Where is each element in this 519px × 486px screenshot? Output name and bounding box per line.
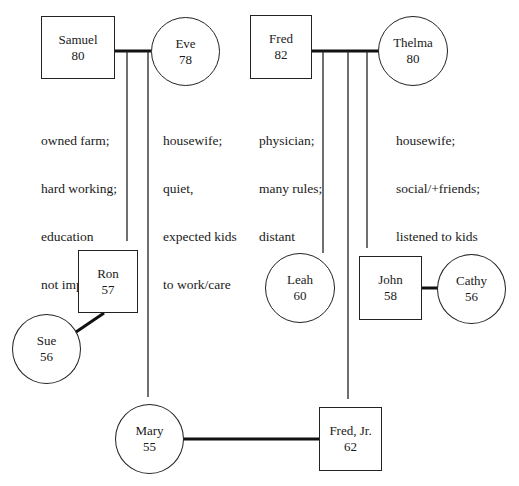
person-age: 78 [179,52,192,68]
person-name: Cathy [456,273,487,289]
person-john: John 58 [359,256,422,320]
person-age: 60 [294,288,307,304]
person-name: Fred [269,31,293,47]
person-name: John [378,272,403,288]
person-age: 57 [102,282,115,298]
person-age: 62 [344,439,357,455]
person-age: 80 [72,48,85,64]
person-sue: Sue 56 [12,314,81,384]
person-name: Sue [37,333,57,349]
person-name: Fred, Jr. [329,423,371,439]
person-cathy: Cathy 56 [437,254,506,324]
person-age: 55 [143,439,156,455]
person-fred: Fred 82 [250,15,312,79]
person-age: 58 [384,288,397,304]
person-age: 80 [407,51,420,67]
person-name: Leah [287,272,313,288]
person-age: 82 [275,47,288,63]
person-name: Ron [97,266,119,282]
person-mary: Mary 55 [115,404,184,474]
note-thelma: housewife; social/+friends; listened to … [396,101,480,261]
person-name: Eve [175,36,195,52]
person-thelma: Thelma 80 [378,16,448,86]
person-eve: Eve 78 [151,17,220,86]
person-fred-jr: Fred, Jr. 62 [319,407,382,471]
person-name: Samuel [59,32,98,48]
note-fred: physician; many rules; distant [259,101,322,261]
person-ron: Ron 57 [78,250,138,313]
marriage-line-ron-sue [76,313,104,332]
person-samuel: Samuel 80 [41,16,115,79]
note-eve: housewife; quiet, expected kids to work/… [163,101,237,309]
person-age: 56 [40,349,53,365]
person-name: Thelma [393,35,433,51]
person-name: Mary [135,423,163,439]
person-age: 56 [465,289,478,305]
person-leah: Leah 60 [265,253,335,323]
